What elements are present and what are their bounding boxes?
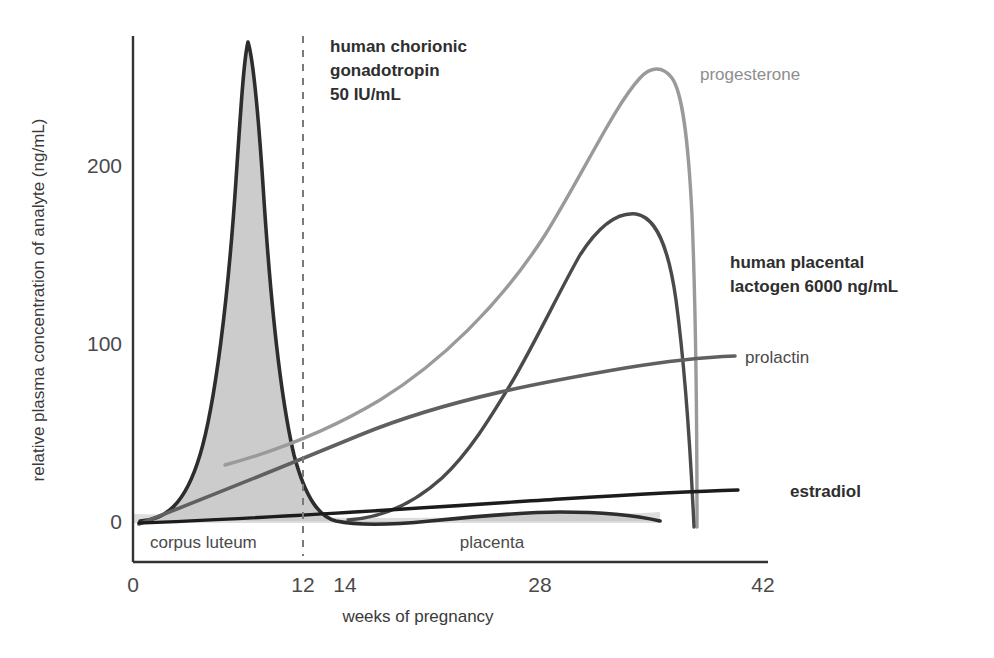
hpl-label-line1: human placental (730, 253, 864, 272)
prolactin-label: prolactin (745, 348, 809, 367)
y-axis-title: relative plasma concentration of analyte… (29, 119, 48, 482)
hcg-area (140, 42, 660, 524)
y-tick-0: 0 (110, 510, 122, 533)
x-tick-28: 28 (528, 573, 551, 596)
y-tick-100: 100 (87, 332, 122, 355)
x-tick-0: 0 (127, 573, 139, 596)
hpl-annotation: human placental lactogen 6000 ng/mL (730, 253, 898, 296)
series-hcg (140, 42, 660, 524)
hcg-annotation: human chorionic gonadotropin 50 IU/mL (330, 37, 467, 104)
region-label-placenta: placenta (460, 533, 525, 552)
estradiol-label: estradiol (790, 482, 861, 501)
hcg-annotation-line3: 50 IU/mL (330, 85, 401, 104)
y-tick-200: 200 (87, 154, 122, 177)
chart-svg: 200 100 0 0 12 14 28 42 weeks of pregnan… (0, 0, 994, 658)
x-tick-12: 12 (291, 573, 314, 596)
x-tick-14: 14 (333, 573, 357, 596)
hpl-curve (348, 214, 694, 527)
x-tick-labels: 0 12 14 28 42 (127, 573, 775, 596)
pregnancy-hormones-chart: 200 100 0 0 12 14 28 42 weeks of pregnan… (0, 0, 994, 658)
hpl-label-line2: lactogen 6000 ng/mL (730, 277, 898, 296)
progesterone-label: progesterone (700, 65, 800, 84)
x-axis-title: weeks of pregnancy (341, 607, 494, 626)
hcg-annotation-line1: human chorionic (330, 37, 467, 56)
y-tick-labels: 200 100 0 (87, 154, 122, 533)
hcg-annotation-line2: gonadotropin (330, 61, 440, 80)
series-hpl (348, 214, 694, 527)
region-label-corpus-luteum: corpus luteum (150, 533, 257, 552)
x-tick-42: 42 (751, 573, 774, 596)
